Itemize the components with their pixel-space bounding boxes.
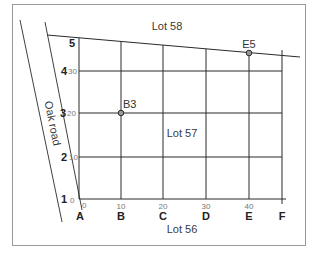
row-tick-3: 20 <box>67 109 76 118</box>
lot-boundary-top <box>47 35 300 57</box>
point-marker-B3 <box>118 110 124 116</box>
row-tick-1: 0 <box>70 196 75 205</box>
col-letter-A: A <box>76 210 84 222</box>
point-label-E5: E5 <box>242 38 255 50</box>
grid-verticals <box>79 38 282 204</box>
col-letter-C: C <box>159 210 167 222</box>
col-tick-A: 0 <box>82 201 87 210</box>
row-number-2: 2 <box>61 151 67 163</box>
row-number-3: 3 <box>60 107 66 119</box>
lot-58-label: Lot 58 <box>152 20 183 32</box>
lot-56-label: Lot 56 <box>167 223 198 235</box>
site-plan-diagram: Lot 58 Lot 57 Lot 56 Oak road 0 10 20 30… <box>0 0 312 257</box>
row-number-4: 4 <box>61 65 68 77</box>
col-letter-D: D <box>202 210 210 222</box>
row-number-1: 1 <box>61 193 67 205</box>
col-letter-F: F <box>279 210 286 222</box>
col-letter-E: E <box>245 210 252 222</box>
col-letter-B: B <box>117 210 125 222</box>
row-tick-4: 30 <box>68 67 77 76</box>
point-label-B3: B3 <box>123 98 136 110</box>
row-number-5: 5 <box>69 37 75 49</box>
lot-57-label: Lot 57 <box>167 127 198 139</box>
point-marker-E5 <box>246 50 252 56</box>
row-tick-2: 10 <box>69 153 78 162</box>
